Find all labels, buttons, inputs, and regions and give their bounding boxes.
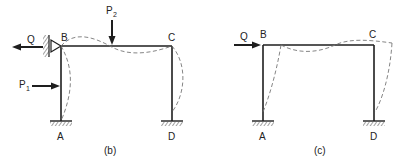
node-label-c-c: C xyxy=(369,29,376,40)
deflected-column-cd xyxy=(172,46,183,112)
label-p1-subscript: 1 xyxy=(26,85,30,92)
load-q-c: Q xyxy=(234,31,261,49)
load-q-b: Q xyxy=(12,34,43,51)
load-p2: P 2 xyxy=(106,5,117,45)
node-label-b: B xyxy=(61,32,68,43)
frame-diagram: Q P 1 P 2 B C A D (b) xyxy=(0,0,404,163)
node-label-c: C xyxy=(168,32,175,43)
node-label-a-c: A xyxy=(259,131,266,142)
label-q-c: Q xyxy=(240,31,248,42)
deflected-beam-c xyxy=(281,40,392,51)
label-p2: P xyxy=(106,5,113,16)
label-q-b: Q xyxy=(27,34,35,45)
fixed-support-a-c xyxy=(252,121,274,126)
panel-b: Q P 1 P 2 B C A D (b) xyxy=(12,5,183,156)
fixed-support-d xyxy=(161,121,183,126)
deflected-beam-b xyxy=(61,37,172,53)
deflected-column-ab-c xyxy=(263,45,281,112)
deflected-column-ab xyxy=(61,46,70,121)
label-p2-subscript: 2 xyxy=(113,11,117,18)
node-label-a: A xyxy=(57,131,64,142)
panel-c: Q B C A D (c) xyxy=(234,29,392,156)
node-label-b-c: B xyxy=(260,29,267,40)
pin-support-b xyxy=(43,35,61,57)
caption-b: (b) xyxy=(104,145,116,156)
label-p1: P xyxy=(19,79,26,90)
load-p1: P 1 xyxy=(19,79,60,92)
fixed-support-d-c xyxy=(363,121,385,126)
caption-c: (c) xyxy=(314,145,326,156)
node-label-d-c: D xyxy=(370,131,377,142)
fixed-support-a xyxy=(50,121,72,126)
deflected-column-cd-c xyxy=(375,43,392,112)
node-label-d: D xyxy=(168,131,175,142)
